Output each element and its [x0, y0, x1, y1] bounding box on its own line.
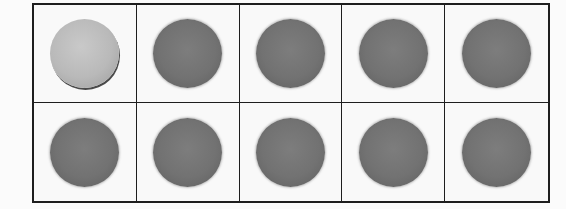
- dark-counter-circle-icon: [462, 118, 531, 187]
- dark-counter-circle-icon: [153, 118, 222, 187]
- frame-cell-r1-c3: [240, 5, 343, 103]
- ten-frame-grid: [32, 3, 550, 203]
- frame-cell-r2-c4: [342, 103, 445, 201]
- frame-cell-r1-c2: [137, 5, 240, 103]
- light-counter-circle-icon: [50, 19, 119, 88]
- dark-counter-circle-icon: [359, 19, 428, 88]
- frame-cell-r2-c5: [445, 103, 548, 201]
- frame-cell-r2-c1: [34, 103, 137, 201]
- frame-cell-r1-c5: [445, 5, 548, 103]
- dark-counter-circle-icon: [50, 118, 119, 187]
- frame-cell-r2-c2: [137, 103, 240, 201]
- frame-cell-r1-c1: [34, 5, 137, 103]
- dark-counter-circle-icon: [153, 19, 222, 88]
- dark-counter-circle-icon: [462, 19, 531, 88]
- frame-cell-r2-c3: [240, 103, 343, 201]
- dark-counter-circle-icon: [256, 19, 325, 88]
- dark-counter-circle-icon: [359, 118, 428, 187]
- dark-counter-circle-icon: [256, 118, 325, 187]
- frame-cell-r1-c4: [342, 5, 445, 103]
